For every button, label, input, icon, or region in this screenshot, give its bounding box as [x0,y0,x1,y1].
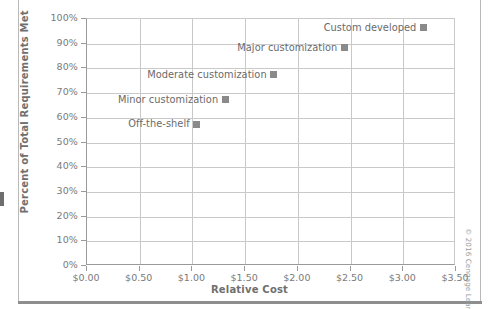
y-axis-tick-label: 40% [57,160,78,171]
gridline-vertical [298,19,299,264]
gridline-vertical [351,19,352,264]
data-point-marker [222,96,229,103]
y-axis-tick-mark [81,142,86,143]
y-axis-tick-label: 0% [63,259,78,270]
y-axis-tick-mark [81,166,86,167]
x-axis-tick-mark [244,266,245,271]
y-axis-tick-mark [81,18,86,19]
x-axis-tick-mark [297,266,298,271]
data-point-marker [341,44,348,51]
data-point-label: Moderate customization [67,69,267,80]
x-axis-tick-mark [455,266,456,271]
x-axis-tick-mark [402,266,403,271]
x-axis-tick-label: $3.50 [415,272,495,283]
y-axis-tick-label: 90% [57,37,78,48]
chart-figure: 0%10%20%30%40%50%60%70%80%90%100% $0.00$… [0,0,499,309]
page-edge-mark [0,192,4,206]
x-axis-tick-mark [86,266,87,271]
copyright-credit: © 2016 Cengage Learning [464,228,473,308]
data-point-label: Minor customization [18,94,218,105]
data-point-marker [270,71,277,78]
plot-area [86,18,455,265]
y-axis-tick-label: 10% [57,234,78,245]
gridline-vertical [245,19,246,264]
data-point-marker [420,24,427,31]
y-axis-tick-label: 100% [50,12,78,23]
x-axis-tick-mark [350,266,351,271]
x-axis-tick-mark [191,266,192,271]
gridline-horizontal [87,143,454,144]
figure-frame-shadow [18,301,482,304]
gridline-vertical [192,19,193,264]
x-axis-title: Relative Cost [0,284,499,295]
data-point-label: Major customization [137,42,337,53]
y-axis-tick-mark [81,216,86,217]
x-axis-tick-mark [139,266,140,271]
gridline-horizontal [87,167,454,168]
gridline-vertical [140,19,141,264]
y-axis-tick-label: 50% [57,136,78,147]
gridline-horizontal [87,217,454,218]
gridline-vertical [403,19,404,264]
y-axis-tick-mark [81,240,86,241]
y-axis-tick-mark [81,43,86,44]
y-axis-tick-label: 20% [57,210,78,221]
gridline-horizontal [87,241,454,242]
y-axis-title: Percent of Total Requirements Met [19,14,30,214]
data-point-marker [193,121,200,128]
data-point-label: Custom developed [216,22,416,33]
y-axis-tick-label: 30% [57,185,78,196]
gridline-horizontal [87,192,454,193]
y-axis-tick-mark [81,191,86,192]
